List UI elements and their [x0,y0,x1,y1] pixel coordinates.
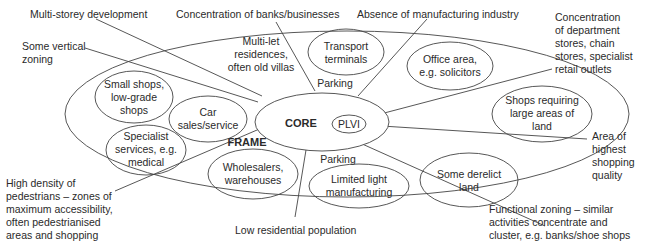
annotation-shopping-quality: Area of highest shopping quality [592,130,635,181]
plvi-label: PLVI [338,118,360,130]
land-use-transport: Transport terminals [308,29,384,75]
land-use-large-shops: Shops requiring large areas of land [492,86,592,142]
parking-top-label: Parking [317,77,353,89]
svg-text:often old villas: often old villas [228,61,295,73]
core-ellipse [255,93,389,151]
cbd-model-diagram: CORE PLVI FRAME Parking Parking Multi-le… [0,0,645,246]
svg-text:pedestrians – zones of: pedestrians – zones of [6,190,112,202]
annotation-vertical-zoning: Some vertical zoning [22,40,86,65]
svg-text:Limited light: Limited light [331,173,387,185]
svg-text:shops: shops [120,104,148,116]
land-use-specialist-services: Specialist services, e.g. medical [106,125,186,175]
svg-text:warehouses: warehouses [224,174,282,186]
svg-text:e.g. solicitors: e.g. solicitors [419,66,480,78]
annotation-multi-storey: Multi-storey development [30,8,147,20]
land-use-derelict: Some derelict land [420,153,518,207]
annotation-department-stores: Concentration of department stores, chai… [555,11,633,75]
svg-text:medical: medical [128,156,164,168]
svg-text:highest: highest [592,143,626,155]
svg-text:services, e.g.: services, e.g. [115,143,177,155]
svg-text:manufacturing: manufacturing [326,186,393,198]
multi-let-residences-label: Multi-let residences, often old villas [228,35,295,73]
svg-text:shopping: shopping [592,156,635,168]
svg-text:stores, specialist: stores, specialist [555,50,633,62]
svg-text:Shops requiring: Shops requiring [505,94,579,106]
land-use-wholesalers: Wholesalers, warehouses [208,149,298,199]
svg-text:Specialist: Specialist [124,130,169,142]
svg-text:maximum accessibility,: maximum accessibility, [6,203,113,215]
frame-label: FRAME [227,136,266,148]
svg-text:large areas of: large areas of [510,107,574,119]
svg-text:land: land [532,120,552,132]
annotation-residential: Low residential population [235,224,357,236]
svg-text:areas and shopping: areas and shopping [6,229,98,241]
core-label: CORE [285,117,317,129]
land-use-car-sales: Car sales/service [169,96,247,142]
leader-manufacturing [358,19,427,96]
annotation-banks: Concentration of banks/businesses [176,8,339,20]
svg-text:quality: quality [592,169,623,181]
annotation-pedestrians: High density of pedestrians – zones of m… [6,177,113,241]
land-use-light-manufacturing: Limited light manufacturing [309,164,409,208]
land-use-office: Office area, e.g. solicitors [407,42,493,90]
leader-residential [295,150,306,217]
svg-text:stores, chain: stores, chain [555,37,615,49]
svg-text:land: land [459,181,479,193]
svg-text:cluster, e.g. banks/shoe shops: cluster, e.g. banks/shoe shops [489,229,630,241]
svg-text:Some derelict: Some derelict [437,168,501,180]
svg-text:activities concentrate and: activities concentrate and [489,216,608,228]
svg-text:Area of: Area of [592,130,626,142]
annotation-functional-zoning: Functional zoning – similar activities c… [489,203,630,241]
svg-text:zoning: zoning [22,53,53,65]
parking-bottom-label: Parking [320,153,356,165]
svg-text:Concentration: Concentration [555,11,621,23]
svg-text:High density of: High density of [6,177,76,189]
svg-text:Multi-let: Multi-let [243,35,280,47]
land-use-small-shops: Small shops, low-grade shops [95,71,173,123]
svg-text:Car: Car [200,106,217,118]
svg-text:sales/service: sales/service [178,119,239,131]
svg-text:often pedestrianised: often pedestrianised [6,216,101,228]
svg-text:of department: of department [555,24,620,36]
svg-text:Some vertical: Some vertical [22,40,86,52]
svg-text:Wholesalers,: Wholesalers, [223,161,284,173]
svg-text:residences,: residences, [234,48,288,60]
svg-text:Small shops,: Small shops, [104,78,164,90]
svg-text:Transport: Transport [324,40,369,52]
svg-text:retail outlets: retail outlets [555,63,612,75]
svg-text:Functional zoning – similar: Functional zoning – similar [489,203,614,215]
svg-text:Office area,: Office area, [423,53,477,65]
annotation-manufacturing: Absence of manufacturing industry [357,8,519,20]
svg-text:terminals: terminals [325,53,368,65]
svg-text:low-grade: low-grade [111,91,157,103]
